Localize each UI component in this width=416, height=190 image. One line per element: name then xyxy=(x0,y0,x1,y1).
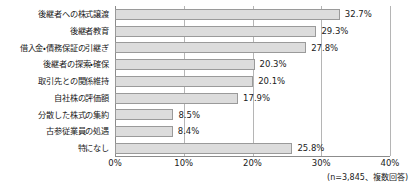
chart-footnote: (n=3,845、複数回答) xyxy=(327,174,408,182)
x-tick-label: 0% xyxy=(108,159,122,168)
category-label: 特になし xyxy=(0,140,112,157)
bar xyxy=(115,76,253,87)
bar xyxy=(115,143,292,154)
bar-row: 32.7% xyxy=(115,6,390,23)
bar xyxy=(115,42,306,53)
bar xyxy=(115,93,238,104)
bar xyxy=(115,126,173,137)
bar-value-label: 25.8% xyxy=(297,144,324,153)
bar-row: 25.8% xyxy=(115,140,390,157)
category-label: 借入金・債務保証の引継ぎ xyxy=(0,40,112,57)
bar xyxy=(115,26,316,37)
bar-value-label: 20.3% xyxy=(260,60,287,69)
category-label: 後継者教育 xyxy=(0,23,112,40)
x-tick-label: 10% xyxy=(174,159,193,168)
category-label: 自社株の評価額 xyxy=(0,90,112,107)
bar-row: 8.5% xyxy=(115,107,390,124)
x-tick-label: 20% xyxy=(243,159,262,168)
bar-value-label: 32.7% xyxy=(345,10,372,19)
bar-value-label: 27.8% xyxy=(311,44,338,53)
category-label: 後継者の探索・確保 xyxy=(0,56,112,73)
bar-value-label: 29.3% xyxy=(321,27,348,36)
x-tick-label: 30% xyxy=(312,159,331,168)
bar-row: 29.3% xyxy=(115,23,390,40)
bar xyxy=(115,9,340,20)
bar-row: 17.9% xyxy=(115,90,390,107)
bar xyxy=(115,109,173,120)
bar-row: 27.8% xyxy=(115,40,390,57)
category-label: 分散した株式の集約 xyxy=(0,107,112,124)
category-label: 取引先との関係維持 xyxy=(0,73,112,90)
bar-value-label: 17.9% xyxy=(243,94,270,103)
bar-row: 20.3% xyxy=(115,56,390,73)
category-label: 古参従業員の処遇 xyxy=(0,123,112,140)
x-tick-label: 40% xyxy=(381,159,400,168)
gridline-40% xyxy=(390,6,391,156)
category-label: 後継者への株式譲渡 xyxy=(0,6,112,23)
bar-chart: 後継者への株式譲渡後継者教育借入金・債務保証の引継ぎ後継者の探索・確保取引先との… xyxy=(0,0,416,190)
bar-value-label: 20.1% xyxy=(258,77,285,86)
bar-row: 20.1% xyxy=(115,73,390,90)
bar-row: 8.4% xyxy=(115,123,390,140)
bar-value-label: 8.4% xyxy=(178,127,200,136)
category-axis-labels: 後継者への株式譲渡後継者教育借入金・債務保証の引継ぎ後継者の探索・確保取引先との… xyxy=(0,6,112,157)
bar-series: 32.7%29.3%27.8%20.3%20.1%17.9%8.5%8.4%25… xyxy=(115,6,390,157)
bar-value-label: 8.5% xyxy=(178,111,200,120)
bar xyxy=(115,59,255,70)
